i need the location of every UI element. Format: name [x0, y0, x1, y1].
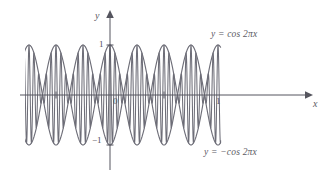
x-axis-label: x: [313, 99, 317, 109]
lower-curve-equation-label: y = −cos 2πx: [204, 148, 257, 158]
y-axis-label: y: [95, 11, 99, 21]
squeeze-theorem-figure: [0, 0, 329, 178]
y-tick-label-positive-one: 1: [99, 40, 104, 49]
axes: [20, 10, 313, 170]
y-tick-label-negative-one: −1: [92, 136, 102, 145]
x-tick-label-one: 1: [216, 97, 221, 106]
origin-label: 0: [113, 97, 118, 106]
oscillating-curve: [24, 45, 221, 143]
upper-curve-equation-label: y = cos 2πx: [211, 30, 257, 40]
y-axis-arrowhead: [106, 10, 114, 18]
x-axis-arrowhead: [305, 91, 313, 99]
